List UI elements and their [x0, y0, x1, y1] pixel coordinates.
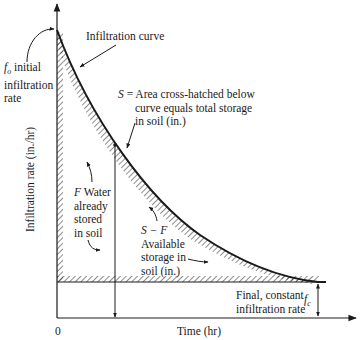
leader-f-up: [87, 162, 92, 182]
origin-label: 0: [55, 325, 61, 339]
leader-f-down: [88, 240, 100, 250]
hatch-curve-band: [57, 30, 318, 284]
leader-curve: [80, 45, 116, 67]
f0-label: fo initial infiltration rate: [4, 61, 53, 106]
leader-sf-right: [188, 259, 208, 262]
leader-f0: [27, 29, 54, 62]
final-rate-label: Final, constant infiltration rate: [236, 289, 305, 316]
fc-label: fc: [304, 293, 311, 311]
hatch-y-axis: [57, 32, 63, 282]
curve-label: Infiltration curve: [86, 30, 164, 44]
infiltration-curve: [57, 30, 326, 282]
f-label: F Water already stored in soil: [74, 186, 111, 240]
s-minus-f-label: S − F Available storage in soil (in.): [141, 224, 186, 278]
x-axis-label: Time (hr): [177, 325, 221, 339]
y-axis-label: Infiltration rate (in./hr): [24, 127, 36, 232]
s-label: S = Area cross-hatched below curve equal…: [118, 88, 255, 129]
infiltration-diagram: [0, 0, 361, 340]
leader-sf-up: [149, 207, 157, 221]
